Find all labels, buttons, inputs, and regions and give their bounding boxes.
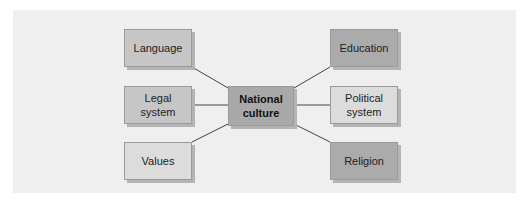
node-religion: Religion <box>330 142 398 180</box>
node-national-culture: National culture <box>228 86 294 126</box>
node-language: Language <box>124 29 192 67</box>
node-label-line1: Political <box>345 91 383 105</box>
node-label: Values <box>142 155 175 167</box>
node-label-line2: system <box>345 105 383 119</box>
node-label: Education <box>340 42 389 54</box>
node-label-line2: system <box>141 105 176 119</box>
node-label: Religion <box>344 155 384 167</box>
node-education: Education <box>330 29 398 67</box>
node-values: Values <box>124 142 192 180</box>
node-label: Language <box>134 42 183 54</box>
node-political-system: Political system <box>330 86 398 124</box>
node-label-line1: Legal <box>141 91 176 105</box>
center-label-line1: National <box>239 92 282 106</box>
node-legal-system: Legal system <box>124 86 192 124</box>
center-label-line2: culture <box>239 106 282 120</box>
